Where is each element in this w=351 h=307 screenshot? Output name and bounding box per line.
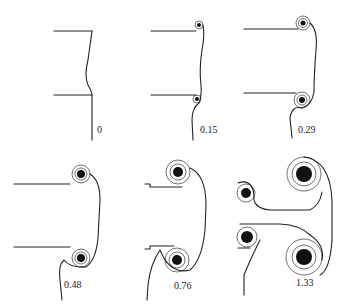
vortex-sheet-plot [230, 150, 351, 307]
time-label: 1.33 [296, 277, 314, 288]
panel-t048: 0.48 [0, 150, 120, 307]
vortex-sheet [86, 31, 92, 140]
panel-t029: 0.29 [230, 0, 351, 150]
panel-t133: 1.33 [230, 150, 351, 307]
panel-t015: 0.15 [120, 0, 230, 150]
time-label: 0.15 [200, 124, 218, 135]
time-label: 0 [97, 124, 102, 135]
panel-t0: 0 [0, 0, 120, 150]
time-label: 0.29 [298, 124, 316, 135]
vortex-sheet-plot [230, 0, 351, 150]
vortex-sheet-plot [0, 150, 120, 307]
panel-t076: 0.76 [120, 150, 230, 307]
time-label: 0.48 [64, 279, 82, 290]
vortex-sheet-plot [0, 0, 120, 150]
time-label: 0.76 [174, 280, 192, 291]
